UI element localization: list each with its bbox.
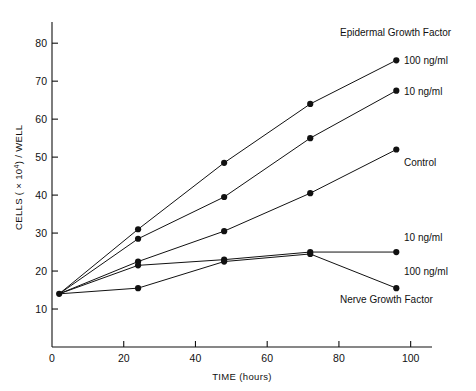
y-tick-label: 70	[35, 75, 47, 87]
data-point	[393, 249, 399, 255]
chart-annotation-ngf_10: 10 ng/ml	[404, 232, 442, 243]
chart-annotation-egf_title: Epidermal Growth Factor	[340, 27, 452, 38]
data-point	[135, 226, 141, 232]
data-point	[393, 285, 399, 291]
data-point	[221, 194, 227, 200]
data-point	[135, 236, 141, 242]
chart-series	[59, 146, 399, 293]
chart-canvas: 1020304050607080 020406080100 CELLS ( × …	[0, 0, 476, 391]
data-point	[393, 146, 399, 152]
chart-series	[59, 88, 399, 294]
series-line	[59, 150, 396, 294]
data-point	[221, 228, 227, 234]
chart-annotation-ngf_title: Nerve Growth Factor	[340, 294, 433, 305]
chart-annotation-ngf_100: 100 ng/ml	[404, 266, 448, 277]
y-tick-label: 60	[35, 113, 47, 125]
y-tick-label: 20	[35, 265, 47, 277]
data-point	[307, 135, 313, 141]
x-axis-ticks: 020406080100	[49, 341, 419, 364]
data-point	[221, 258, 227, 264]
y-tick-label: 30	[35, 227, 47, 239]
chart-series	[59, 249, 399, 294]
y-axis-title-pre: CELLS ( × 10	[13, 169, 24, 231]
series-line	[59, 91, 396, 294]
data-point	[221, 160, 227, 166]
data-point	[307, 101, 313, 107]
y-tick-label: 50	[35, 151, 47, 163]
y-tick-label: 40	[35, 189, 47, 201]
y-axis-title: CELLS ( × 104) / WELL	[13, 124, 25, 230]
chart-series	[59, 251, 399, 294]
chart-annotations-layer: Epidermal Growth Factor100 ng/ml10 ng/ml…	[340, 27, 452, 305]
chart-annotation-egf_100: 100 ng/ml	[404, 55, 448, 66]
growth-factor-line-chart: 1020304050607080 020406080100 CELLS ( × …	[0, 0, 476, 391]
data-point	[393, 88, 399, 94]
svg-text:CELLS ( × 104) / WELL: CELLS ( × 104) / WELL	[13, 124, 25, 230]
x-tick-label: 0	[49, 352, 55, 364]
data-point	[393, 57, 399, 63]
x-tick-label: 20	[118, 352, 130, 364]
x-tick-label: 60	[261, 352, 273, 364]
data-point	[135, 262, 141, 268]
x-tick-label: 80	[333, 352, 345, 364]
x-tick-label: 40	[190, 352, 202, 364]
data-point	[307, 251, 313, 257]
y-tick-label: 80	[35, 37, 47, 49]
y-axis-title-post: ) / WELL	[13, 124, 24, 164]
chart-annotation-egf_10: 10 ng/ml	[404, 86, 442, 97]
data-point	[135, 285, 141, 291]
x-axis-title: TIME (hours)	[212, 371, 272, 382]
y-axis-ticks: 1020304050607080	[35, 37, 58, 315]
chart-annotation-control: Control	[404, 157, 436, 168]
chart-series-layer	[56, 57, 399, 297]
series-line	[59, 254, 396, 294]
x-tick-label: 100	[402, 352, 420, 364]
data-point	[307, 190, 313, 196]
y-tick-label: 10	[35, 303, 47, 315]
